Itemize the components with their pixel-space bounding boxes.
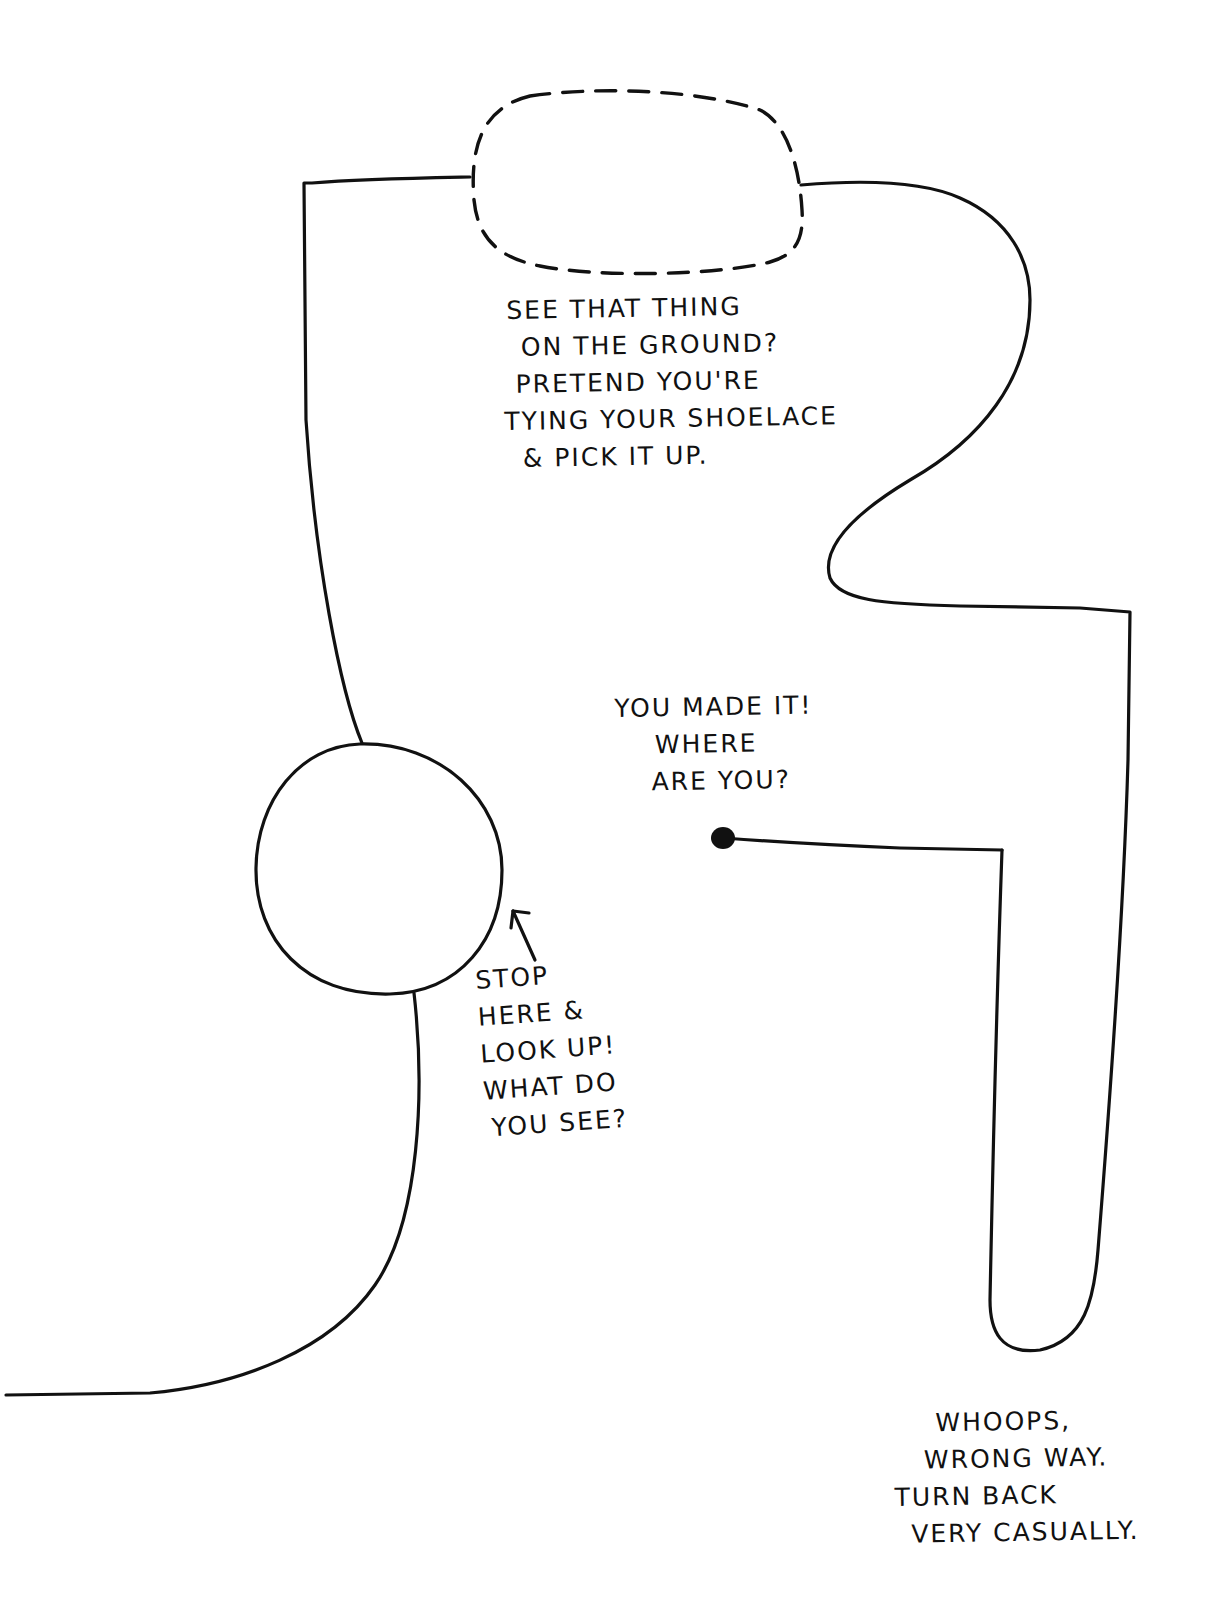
path-left-edge	[304, 177, 470, 743]
note-line: Where	[655, 724, 814, 764]
note-line: are you?	[651, 761, 814, 801]
note-line: on the ground?	[521, 323, 837, 366]
note-line: wrong way.	[924, 1438, 1139, 1479]
note-line: You made it!	[614, 687, 813, 727]
note-line: See that thing	[506, 286, 836, 329]
note-line: Turn back	[894, 1475, 1139, 1516]
note-wrong-way: Whoops, wrong way. Turn back very casual…	[893, 1401, 1140, 1553]
note-line: very casually.	[911, 1512, 1140, 1553]
note-line: Whoops,	[935, 1401, 1138, 1442]
path-to-destination	[724, 838, 1002, 850]
ground-thing-dashed-outline	[473, 91, 802, 274]
note-ground-thing: See that thing on the ground? Pretend yo…	[506, 286, 839, 477]
note-line: & pick it up.	[523, 434, 839, 477]
note-line: Pretend you're	[515, 360, 837, 403]
walking-path-map	[0, 0, 1218, 1611]
note-stop-here: Stop here & look up! What do you see?	[474, 952, 629, 1146]
note-line: tying your shoelace	[504, 397, 838, 440]
path-start-curve	[6, 993, 419, 1395]
arrow-up-left-icon	[511, 911, 535, 960]
end-point-dot-icon	[711, 827, 735, 849]
stop-circle	[256, 744, 502, 994]
note-destination: You made it! Where are you?	[614, 687, 814, 801]
path-right-s-curve	[801, 182, 1130, 1350]
